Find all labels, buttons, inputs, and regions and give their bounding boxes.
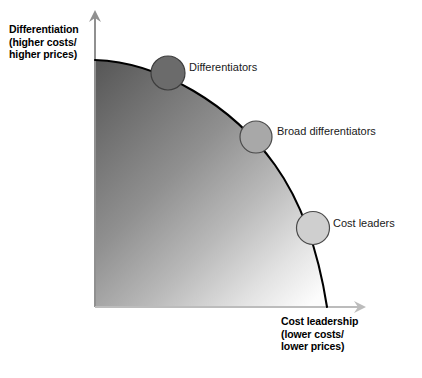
y-axis-label: Differentiation (higher costs/ higher pr…: [9, 23, 79, 61]
y-axis-label-line1: Differentiation: [9, 23, 79, 36]
strategy-frontier-diagram: Differentiation (higher costs/ higher pr…: [0, 0, 422, 378]
y-axis-label-line3: higher prices): [9, 48, 79, 61]
x-axis-label-line2: (lower costs/: [281, 328, 358, 341]
x-axis-label-line3: lower prices): [281, 340, 358, 353]
gradient-region: [95, 60, 327, 307]
x-axis-label: Cost leadership (lower costs/ lower pric…: [281, 315, 358, 353]
node-broad-differentiators[interactable]: [240, 121, 272, 153]
y-axis-label-line2: (higher costs/: [9, 36, 79, 49]
node-differentiators[interactable]: [151, 56, 185, 90]
node-cost-leaders[interactable]: [297, 212, 330, 245]
x-axis-label-line1: Cost leadership: [281, 315, 358, 328]
node-label-cost-leaders: Cost leaders: [333, 217, 395, 229]
node-label-differentiators: Differentiators: [189, 61, 257, 73]
node-label-broad-differentiators: Broad differentiators: [277, 125, 376, 137]
